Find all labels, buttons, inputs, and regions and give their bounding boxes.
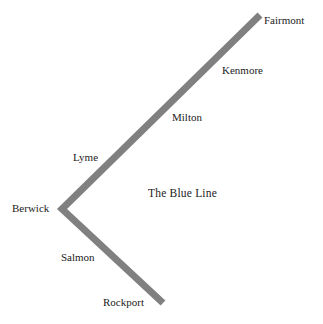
blue-line-route [0,0,323,324]
station-label-salmon[interactable]: Salmon [61,251,95,264]
station-label-fairmont[interactable]: Fairmont [264,14,304,27]
line-title: The Blue Line [148,187,217,200]
transit-map-canvas: FairmontKenmoreMiltonLymeBerwickSalmonRo… [0,0,323,324]
station-label-kenmore[interactable]: Kenmore [222,64,263,77]
station-label-lyme[interactable]: Lyme [73,151,98,164]
station-label-rockport[interactable]: Rockport [103,296,144,309]
station-label-berwick[interactable]: Berwick [12,202,49,215]
station-label-milton[interactable]: Milton [172,111,202,124]
